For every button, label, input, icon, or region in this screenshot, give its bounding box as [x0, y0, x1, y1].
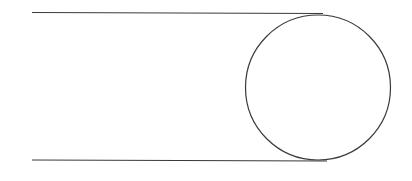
diagram-svg — [0, 0, 412, 181]
diagram-canvas — [0, 0, 412, 181]
circle-shape — [246, 15, 391, 160]
top-tangent-line — [32, 13, 323, 14]
bottom-tangent-line — [32, 160, 327, 161]
